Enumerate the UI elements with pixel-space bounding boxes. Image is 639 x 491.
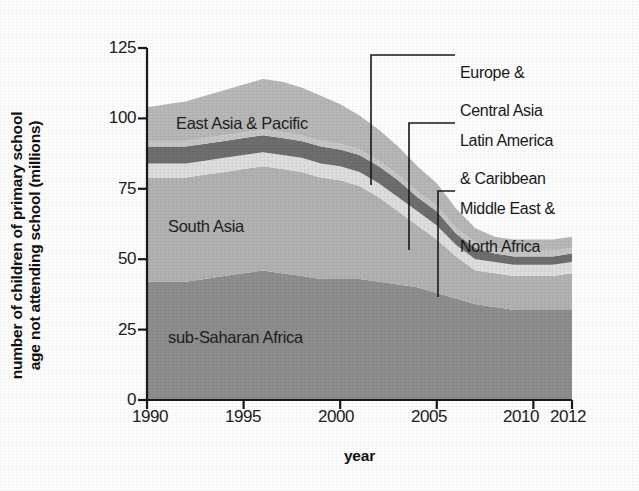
callout-label-middle-east-north-africa: Middle East & North Africa [460,181,555,275]
callout-middle-east-line1: Middle East & [460,200,555,219]
series-label-east-asia-pacific: East Asia & Pacific [176,114,308,133]
callout-latin-america-line1: Latin America [460,132,553,151]
callout-europe-central-asia-line1: Europe & [460,64,543,83]
stacked-area-chart-figure: number of children of primary school age… [0,0,639,491]
series-label-south-asia: South Asia [168,217,244,236]
callout-middle-east-line2: North Africa [460,238,555,257]
series-label-sub-saharan-africa: sub-Saharan Africa [168,328,303,347]
